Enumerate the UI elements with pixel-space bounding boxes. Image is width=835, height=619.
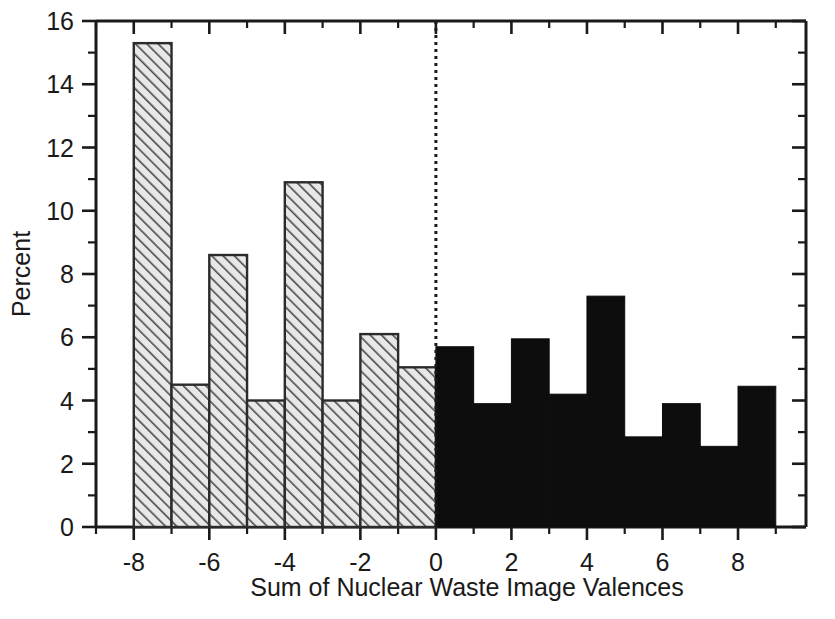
- bars-negative-series: [134, 43, 436, 527]
- histogram-bar: [436, 347, 474, 527]
- histogram-bar: [738, 386, 776, 527]
- histogram-bar: [209, 255, 247, 527]
- y-axis-title: Percent: [7, 231, 35, 317]
- x-tick-label: -2: [349, 548, 371, 576]
- y-tick-label: 16: [46, 7, 74, 35]
- x-tick-label: 8: [731, 548, 745, 576]
- histogram-bar: [511, 339, 549, 527]
- histogram-bar: [474, 404, 512, 527]
- y-tick-label: 6: [60, 323, 74, 351]
- y-tick-label: 2: [60, 450, 74, 478]
- histogram-bar: [700, 446, 738, 527]
- y-tick-label: 14: [46, 70, 74, 98]
- histogram-bar: [587, 296, 625, 527]
- histogram-bar: [360, 334, 398, 527]
- x-tick-label: -8: [123, 548, 145, 576]
- y-tick-label: 12: [46, 134, 74, 162]
- bars-positive-series: [436, 296, 776, 527]
- histogram-bar: [662, 404, 700, 527]
- x-tick-label: 4: [580, 548, 594, 576]
- x-tick-label: -6: [198, 548, 220, 576]
- histogram-bar: [134, 43, 172, 527]
- x-axis-tick-labels: -8-6-4-202468: [123, 548, 745, 576]
- histogram-bar: [172, 385, 210, 527]
- histogram-bar: [549, 394, 587, 527]
- histogram-bar: [625, 437, 663, 527]
- y-tick-label: 10: [46, 197, 74, 225]
- histogram-bar: [285, 182, 323, 527]
- x-tick-label: 0: [429, 548, 443, 576]
- y-tick-label: 0: [60, 513, 74, 541]
- x-tick-label: 2: [504, 548, 518, 576]
- histogram-figure: -8-6-4-202468 0246810121416 Sum of Nucle…: [0, 0, 835, 619]
- histogram-chart: -8-6-4-202468 0246810121416 Sum of Nucle…: [0, 0, 835, 619]
- x-tick-label: 6: [656, 548, 670, 576]
- x-axis-title: Sum of Nuclear Waste Image Valences: [250, 573, 684, 601]
- histogram-bar: [398, 367, 436, 527]
- histogram-bar: [323, 401, 361, 528]
- y-tick-label: 4: [60, 387, 74, 415]
- x-tick-label: -4: [274, 548, 296, 576]
- histogram-bar: [247, 401, 285, 528]
- y-tick-label: 8: [60, 260, 74, 288]
- y-axis-tick-labels: 0246810121416: [46, 7, 74, 541]
